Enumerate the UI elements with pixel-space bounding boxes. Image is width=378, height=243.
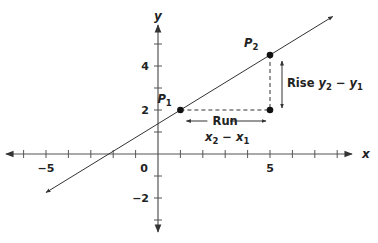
x-axis-label: x <box>361 147 371 161</box>
run-formula: x2 − x1 <box>204 130 249 146</box>
y-axis-label: y <box>154 9 163 23</box>
slope-chart: xy−5542−20P1P2 Runx2 − x1Rise y2 − y1 <box>0 0 378 243</box>
y-tick-label: 4 <box>141 60 149 73</box>
x-tick-label: 5 <box>266 162 274 175</box>
origin-label: 0 <box>140 162 148 175</box>
y-tick-label: 2 <box>141 104 149 117</box>
point-p1 <box>177 107 184 114</box>
y-tick-label: −2 <box>132 192 149 205</box>
point-label-p1: P1 <box>157 92 171 108</box>
run-label: Run <box>213 114 238 128</box>
line-series <box>46 17 333 193</box>
corner-point <box>267 107 274 114</box>
point-label-p2: P2 <box>244 36 258 52</box>
x-tick-label: −5 <box>38 162 55 175</box>
rise-label: Rise y2 − y1 <box>287 76 363 92</box>
point-p2 <box>267 52 274 59</box>
